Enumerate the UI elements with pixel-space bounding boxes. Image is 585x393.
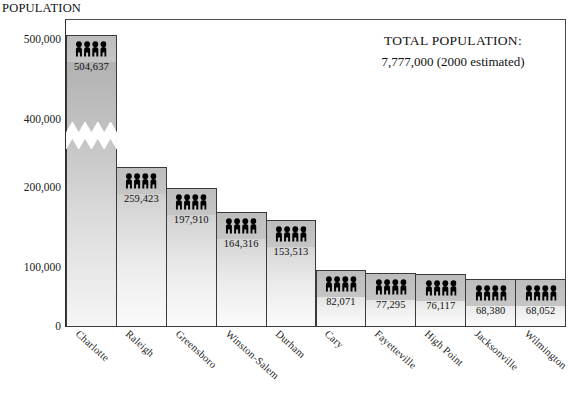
total-population-value: 7,777,000 (2000 estimated) — [348, 54, 558, 70]
y-axis-tick-labels: 500,000 400,000 200,000 100,000 0 — [0, 19, 61, 327]
y-axis-title: POPULATION — [2, 1, 81, 16]
y-tick-0: 0 — [55, 320, 61, 332]
bar-value-label: 197,910 — [174, 214, 209, 225]
y-tick-500000: 500,000 — [24, 33, 61, 45]
bar-value-label: 504,637 — [74, 61, 109, 72]
x-label-wilmington: Wilmington — [523, 328, 569, 371]
x-label-cary: Cary — [323, 328, 346, 350]
x-label-raleigh: Raleigh — [123, 328, 156, 359]
bar-value-label: 153,513 — [274, 246, 309, 257]
total-population-annotation: TOTAL POPULATION: 7,777,000 (2000 estima… — [348, 33, 558, 70]
bar-value-label: 68,380 — [476, 305, 505, 316]
x-label-jacksonville: Jacksonville — [473, 328, 521, 373]
x-label-fayetteville: Fayetteville — [373, 328, 419, 371]
x-axis-category-labels: CharlotteRaleighGreensboroWinston-SalemD… — [66, 328, 565, 393]
y-tick-100000: 100,000 — [24, 261, 61, 273]
bar-value-label: 68,052 — [526, 305, 555, 316]
bar-jacksonville: 68,380 — [465, 279, 516, 327]
people-group-icon — [425, 280, 456, 300]
bar-value-label: 82,071 — [326, 296, 355, 307]
people-group-icon — [276, 226, 307, 246]
bar-greensboro: 197,910 — [166, 188, 217, 327]
x-label-charlotte: Charlotte — [74, 328, 112, 364]
population-bar-chart: POPULATION 500,000 400,000 200,000 100,0… — [0, 0, 585, 393]
y-tick-400000: 400,000 — [24, 113, 61, 125]
bar-value-label: 259,423 — [124, 193, 159, 204]
x-label-durham: Durham — [273, 328, 307, 360]
people-group-icon — [525, 285, 556, 305]
people-group-icon — [226, 218, 257, 238]
bar-value-label: 164,316 — [224, 238, 259, 249]
people-group-icon — [76, 41, 107, 61]
x-label-high-point: High Point — [423, 328, 466, 368]
bar-durham: 153,513 — [266, 220, 317, 327]
bar-wilmington: 68,052 — [515, 279, 566, 327]
people-group-icon — [126, 173, 157, 193]
people-group-icon — [176, 194, 207, 214]
people-group-icon — [325, 276, 356, 296]
x-label-greensboro: Greensboro — [173, 328, 218, 370]
bar-charlotte: 504,637 — [66, 35, 117, 327]
people-group-icon — [375, 279, 406, 299]
x-label-winston-salem: Winston-Salem — [223, 328, 281, 381]
bar-raleigh: 259,423 — [116, 167, 167, 327]
people-group-icon — [475, 285, 506, 305]
total-population-label: TOTAL POPULATION: — [348, 33, 558, 49]
bar-high-point: 76,117 — [415, 274, 466, 327]
bar-fayetteville: 77,295 — [365, 273, 416, 327]
bar-value-label: 76,117 — [426, 300, 455, 311]
y-tick-200000: 200,000 — [24, 181, 61, 193]
bar-cary: 82,071 — [316, 270, 367, 327]
bar-winston-salem: 164,316 — [216, 212, 267, 327]
bar-value-label: 77,295 — [376, 299, 405, 310]
